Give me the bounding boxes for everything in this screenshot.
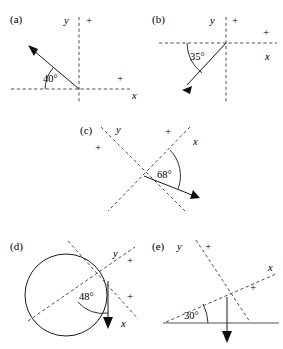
panel-d-x-axis bbox=[68, 241, 138, 319]
geometry-diagram-svg: (a) y x + + 40° (b) y x + + 35° bbox=[0, 0, 283, 349]
panel-d-x-axis-label: x bbox=[120, 318, 126, 329]
panel-b-angle-label: 35° bbox=[190, 51, 205, 62]
panel-e: (e) y x + + 30° bbox=[152, 240, 279, 343]
panel-e-angle-label: 30° bbox=[184, 310, 199, 321]
panel-a-y-axis-label: y bbox=[63, 15, 69, 26]
panel-e-x-axis-label: x bbox=[267, 262, 273, 273]
panel-d-arrowhead-icon bbox=[103, 317, 113, 329]
panel-a-plus-upper: + bbox=[86, 14, 92, 26]
panel-c-plus-left: + bbox=[95, 141, 101, 153]
panel-b-plus-right: + bbox=[263, 26, 269, 38]
panel-b-x-axis-label: x bbox=[264, 51, 270, 62]
panel-a: (a) y x + + 40° bbox=[10, 13, 137, 104]
panel-c: (c) y x + + 68° bbox=[80, 124, 200, 213]
panel-c-label: (c) bbox=[80, 124, 93, 137]
panel-e-x-axis bbox=[166, 274, 276, 322]
panel-d-circle bbox=[25, 254, 107, 336]
panel-c-y-axis bbox=[101, 127, 187, 213]
panel-a-arrowhead-icon bbox=[28, 45, 38, 56]
panel-b-ray bbox=[187, 43, 226, 85]
panel-d-plus-upper: + bbox=[127, 254, 133, 266]
panel-b-arrowhead-icon bbox=[182, 86, 192, 94]
panel-a-x-axis-label: x bbox=[131, 90, 137, 101]
panel-d-y-axis-label: y bbox=[112, 248, 118, 259]
panel-c-arrowhead-icon bbox=[190, 190, 200, 199]
panel-d-angle-label: 48° bbox=[79, 291, 94, 302]
panel-d: (d) y x + + 48° bbox=[10, 240, 138, 336]
panel-d-plus-lower: + bbox=[127, 290, 133, 302]
panel-e-plus-lower: + bbox=[250, 281, 256, 293]
panel-a-plus-right: + bbox=[117, 72, 123, 84]
panel-e-plus-upper: + bbox=[205, 240, 211, 252]
panel-e-label: (e) bbox=[152, 240, 165, 253]
panel-a-label: (a) bbox=[10, 13, 23, 26]
panel-b-label: (b) bbox=[152, 13, 165, 26]
panel-e-y-axis bbox=[196, 240, 250, 322]
panel-e-arrowhead-icon bbox=[222, 331, 232, 343]
panel-b-y-axis-label: y bbox=[209, 15, 215, 26]
panel-d-label: (d) bbox=[10, 240, 23, 253]
panel-b-plus-upper: + bbox=[232, 14, 238, 26]
panel-b: (b) y x + + 35° bbox=[152, 13, 277, 104]
panel-c-y-axis-label: y bbox=[115, 124, 121, 135]
panel-c-plus-top: + bbox=[165, 125, 171, 137]
panel-e-y-axis-label: y bbox=[176, 241, 182, 252]
panel-c-x-axis-label: x bbox=[192, 136, 198, 147]
panel-a-angle-label: 40° bbox=[43, 73, 58, 84]
panel-c-angle-label: 68° bbox=[157, 169, 172, 180]
panel-c-x-axis bbox=[108, 127, 190, 211]
panel-d-y-axis bbox=[28, 247, 135, 321]
panel-e-angle-arc bbox=[203, 304, 208, 323]
figure-container: (a) y x + + 40° (b) y x + + 35° bbox=[0, 0, 283, 349]
